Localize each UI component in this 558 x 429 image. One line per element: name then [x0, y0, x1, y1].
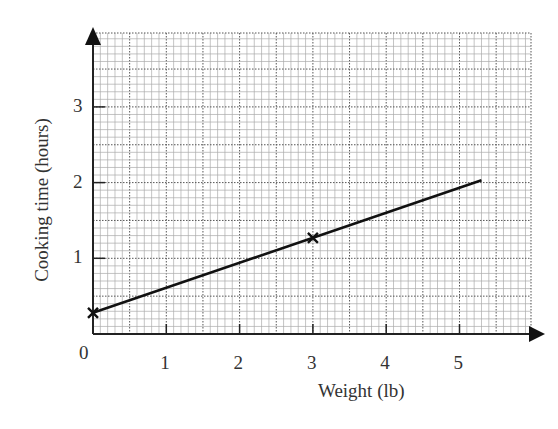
- y-tick-label: 2: [73, 171, 83, 193]
- x-tick-label: 2: [234, 352, 244, 374]
- x-tick-label: 4: [380, 352, 390, 374]
- y-axis-label: Cooking time (hours): [31, 118, 53, 282]
- x-tick-label: 3: [307, 352, 317, 374]
- y-axis-arrow-icon: [85, 27, 101, 45]
- x-tick-label: 1: [160, 352, 170, 374]
- x-tick-label: 0: [79, 342, 89, 364]
- x-axis-label: Weight (lb): [318, 380, 405, 402]
- chart-area: [0, 0, 558, 429]
- x-axis-arrow-icon: [529, 326, 545, 342]
- x-tick-label: 5: [454, 352, 464, 374]
- y-tick-label: 3: [73, 95, 83, 117]
- y-tick-label: 1: [73, 246, 83, 268]
- grid: [93, 33, 531, 334]
